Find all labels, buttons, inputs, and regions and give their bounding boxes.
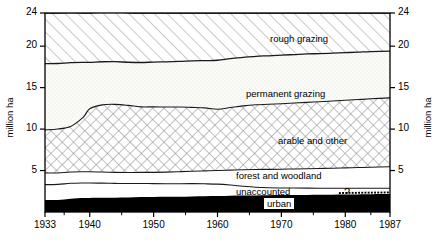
- y-axis-ticks-right: [390, 13, 395, 171]
- series-label-forest-and-woodland: forest and woodland: [236, 170, 322, 181]
- y-tick-label-left: 20: [11, 39, 37, 50]
- chart-plot-area: [0, 0, 436, 249]
- y-axis-title-right: million ha: [422, 95, 433, 141]
- series-label-urban: urban: [263, 197, 295, 210]
- uncertainty-question-mark: ?: [344, 186, 350, 198]
- x-tick-label: 1960: [198, 219, 238, 230]
- series-label-arable-and-other: arable and other: [278, 135, 347, 146]
- y-tick-label-right: 5: [398, 164, 424, 175]
- y-tick-label-right: 20: [398, 39, 424, 50]
- y-tick-label-right: 10: [398, 122, 424, 133]
- x-tick-label: 1950: [134, 219, 174, 230]
- x-tick-label: 1970: [261, 219, 301, 230]
- y-tick-label-left: 5: [11, 164, 37, 175]
- x-axis-ticks: [45, 212, 390, 217]
- x-tick-label: 1987: [370, 219, 410, 230]
- series-label-permanent-grazing: permanent grazing: [246, 88, 325, 99]
- series-label-rough-grazing: rough grazing: [270, 33, 328, 44]
- x-tick-label: 1933: [25, 219, 65, 230]
- y-tick-label-right: 24: [398, 6, 424, 17]
- series-label-unaccounted: unaccounted: [236, 186, 290, 197]
- x-tick-label: 1940: [70, 219, 110, 230]
- y-axis-title-left: million ha: [4, 95, 15, 141]
- y-tick-label-left: 15: [11, 81, 37, 92]
- y-tick-label-left: 10: [11, 122, 37, 133]
- stacked-areas: [45, 12, 390, 212]
- y-tick-label-right: 15: [398, 81, 424, 92]
- y-tick-label-left: 24: [11, 6, 37, 17]
- chart-root: million ha million ha 510152024 51015202…: [0, 0, 436, 249]
- x-tick-label: 1980: [325, 219, 365, 230]
- y-axis-ticks-left: [40, 13, 45, 171]
